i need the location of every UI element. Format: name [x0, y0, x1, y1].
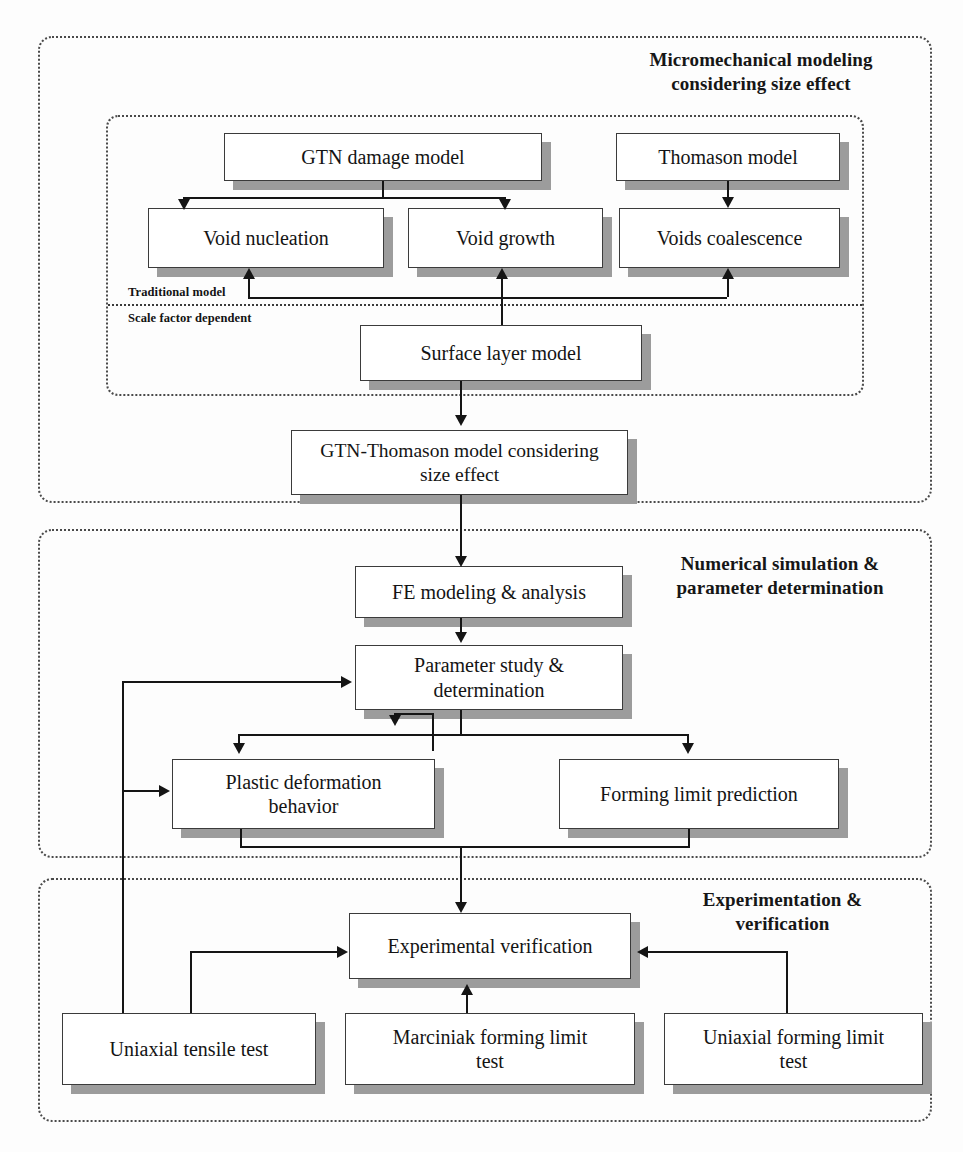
arrow-left-feedback-to-parameter — [341, 676, 352, 688]
arrow-marciniak-to-experimental — [461, 984, 473, 995]
arrow-gtnthomason-to-fe — [455, 556, 467, 567]
arrow-plastic-feedback — [389, 715, 401, 726]
node-marciniak-label: Marciniak forming limit test — [352, 1025, 628, 1074]
connector-parameter-down-stub — [460, 710, 462, 734]
arrow-parameter-to-plastic — [233, 743, 245, 754]
arrow-surface-to-gtnthomason — [455, 415, 467, 426]
connector-left-feedback-spine — [122, 681, 124, 1013]
traditional-scale-divider — [108, 304, 862, 306]
arrow-left-feedback-to-plastic — [159, 785, 170, 797]
node-plastic-deformation-label: Plastic deformation behavior — [179, 770, 428, 819]
node-parameter-study-line2: determination — [362, 678, 616, 702]
node-fe-modeling[interactable]: FE modeling & analysis — [355, 566, 623, 618]
connector-uniaxial-forming-riser — [786, 951, 788, 1013]
node-surface-layer-model-label: Surface layer model — [367, 341, 635, 365]
connector-surface-to-growth — [501, 272, 503, 325]
connector-plastic-feedback-riser — [432, 713, 434, 751]
node-gtn-thomason-model[interactable]: GTN-Thomason model considering size effe… — [291, 430, 628, 495]
connector-merge-to-experimental — [460, 846, 462, 910]
arrow-gtn-to-growth — [499, 199, 511, 210]
connector-uniaxial-forming-to-experimental — [648, 951, 788, 953]
arrow-surface-to-nucleation — [243, 268, 255, 279]
arrow-parameter-to-forming — [682, 743, 694, 754]
section-title-micromechanical-line1: Micromechanical modeling — [606, 48, 916, 72]
tag-traditional-model: Traditional model — [128, 285, 226, 300]
node-uniaxial-forming-line1: Uniaxial forming limit — [671, 1025, 916, 1049]
arrow-uniaxial-forming-to-experimental — [637, 946, 648, 958]
node-uniaxial-forming-limit-test[interactable]: Uniaxial forming limit test — [664, 1013, 923, 1085]
node-uniaxial-forming-line2: test — [671, 1049, 916, 1073]
connector-surface-feeder-bus — [248, 297, 727, 299]
node-parameter-study-label: Parameter study & determination — [362, 653, 616, 702]
node-gtn-thomason-line1: GTN-Thomason model considering — [298, 439, 621, 463]
node-surface-layer-model[interactable]: Surface layer model — [360, 325, 642, 381]
arrow-fe-to-parameter — [455, 632, 467, 643]
node-marciniak-line2: test — [352, 1049, 628, 1073]
node-void-nucleation-label: Void nucleation — [155, 226, 377, 250]
node-gtn-damage-model[interactable]: GTN damage model — [224, 133, 542, 181]
node-thomason-model[interactable]: Thomason model — [616, 133, 840, 181]
arrow-surface-to-coalescence — [722, 268, 734, 279]
node-void-growth-label: Void growth — [415, 226, 596, 250]
node-fe-modeling-label: FE modeling & analysis — [362, 580, 616, 604]
node-experimental-verification[interactable]: Experimental verification — [349, 913, 631, 979]
connector-left-feedback-to-plastic — [122, 790, 164, 792]
arrow-gtn-to-nucleation — [178, 199, 190, 210]
section-title-experimentation: Experimentation & verification — [650, 888, 915, 936]
node-parameter-study[interactable]: Parameter study & determination — [355, 645, 623, 710]
section-title-experimentation-line1: Experimentation & — [650, 888, 915, 912]
node-uniaxial-forming-label: Uniaxial forming limit test — [671, 1025, 916, 1074]
connector-left-feedback-to-parameter — [122, 681, 346, 683]
node-uniaxial-tensile-test-label: Uniaxial tensile test — [69, 1037, 309, 1061]
section-title-numerical: Numerical simulation & parameter determi… — [640, 552, 920, 600]
node-gtn-damage-model-label: GTN damage model — [231, 145, 535, 169]
node-uniaxial-tensile-test[interactable]: Uniaxial tensile test — [62, 1013, 316, 1085]
node-plastic-deformation[interactable]: Plastic deformation behavior — [172, 759, 435, 829]
node-thomason-model-label: Thomason model — [623, 145, 833, 169]
tag-scale-factor-dependent: Scale factor dependent — [128, 311, 251, 326]
connector-surface-to-gtnthomason — [460, 381, 462, 419]
connector-gtn-bus — [183, 197, 505, 199]
connector-tensile-riser — [190, 951, 192, 1013]
node-marciniak-line1: Marciniak forming limit — [352, 1025, 628, 1049]
connector-results-merge-bus — [240, 846, 690, 848]
node-void-growth[interactable]: Void growth — [408, 208, 603, 268]
node-plastic-deformation-line1: Plastic deformation — [179, 770, 428, 794]
section-title-micromechanical-line2: considering size effect — [606, 72, 916, 96]
section-title-numerical-line2: parameter determination — [640, 576, 920, 600]
node-gtn-thomason-line2: size effect — [298, 463, 621, 487]
arrow-merge-to-experimental — [455, 902, 467, 913]
node-void-nucleation[interactable]: Void nucleation — [148, 208, 384, 268]
connector-tensile-to-experimental — [190, 951, 342, 953]
node-experimental-verification-label: Experimental verification — [356, 934, 624, 958]
flowchart-diagram: Micromechanical modeling considering siz… — [0, 0, 963, 1152]
node-forming-limit-prediction[interactable]: Forming limit prediction — [559, 759, 839, 829]
section-title-numerical-line1: Numerical simulation & — [640, 552, 920, 576]
section-title-experimentation-line2: verification — [650, 912, 915, 936]
arrow-thomason-to-coalescence — [722, 197, 734, 208]
node-parameter-study-line1: Parameter study & — [362, 653, 616, 677]
arrow-surface-to-growth — [496, 268, 508, 279]
node-plastic-deformation-line2: behavior — [179, 794, 428, 818]
connector-gtnthomason-to-fe — [460, 495, 462, 561]
node-voids-coalescence[interactable]: Voids coalescence — [619, 208, 840, 268]
node-forming-limit-prediction-label: Forming limit prediction — [566, 782, 832, 806]
arrow-tensile-to-experimental — [337, 946, 348, 958]
node-gtn-thomason-model-label: GTN-Thomason model considering size effe… — [298, 439, 621, 487]
node-voids-coalescence-label: Voids coalescence — [626, 226, 833, 250]
connector-parameter-split-bus — [238, 734, 688, 736]
node-marciniak-forming-limit-test[interactable]: Marciniak forming limit test — [345, 1013, 635, 1085]
section-title-micromechanical: Micromechanical modeling considering siz… — [606, 48, 916, 96]
